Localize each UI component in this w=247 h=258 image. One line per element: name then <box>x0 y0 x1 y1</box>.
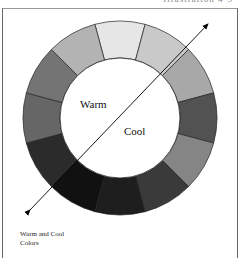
caption-line-2: Colors <box>20 239 64 248</box>
caption-line-1: Warm and Cool <box>20 230 64 239</box>
figure-caption: Warm and Cool Colors <box>20 230 64 248</box>
cool-label: Cool <box>124 125 145 137</box>
warm-label: Warm <box>80 98 107 110</box>
